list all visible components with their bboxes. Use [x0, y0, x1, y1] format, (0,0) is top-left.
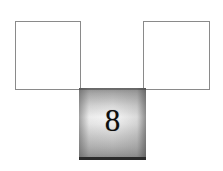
square-right[interactable] [143, 21, 210, 90]
square-center-shaded[interactable]: 8 [79, 88, 146, 160]
square-left[interactable] [15, 21, 81, 90]
figure-canvas: 8 [0, 0, 223, 171]
square-center-digit: 8 [105, 105, 121, 136]
